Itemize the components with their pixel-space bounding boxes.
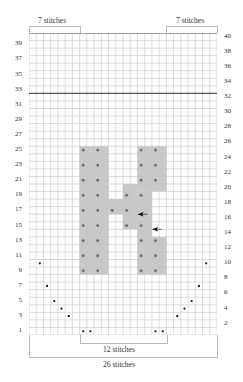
purl-dot-icon	[96, 179, 99, 182]
top-left-stitch-label: 7 stitches	[38, 16, 66, 25]
purl-dot-icon	[140, 269, 143, 272]
row-number-label: 11	[6, 251, 22, 259]
stitch-dot-icon	[89, 330, 91, 332]
row-number-label: 28	[224, 122, 240, 130]
row-number-label: 26	[224, 137, 240, 145]
row-number-label: 38	[224, 47, 240, 55]
row-number-label: 35	[6, 70, 22, 78]
purl-dot-icon	[82, 254, 85, 257]
stitch-dot-icon	[154, 330, 156, 332]
row-number-label: 12	[224, 243, 240, 251]
row-number-label: 8	[224, 273, 240, 281]
row-number-label: 10	[224, 258, 240, 266]
purl-dot-icon	[125, 209, 128, 212]
row-number-label: 24	[224, 153, 240, 161]
row-number-label: 16	[224, 213, 240, 221]
row-number-label: 18	[224, 198, 240, 206]
stitch-dot-icon	[191, 300, 193, 302]
row-number-label: 19	[6, 190, 22, 198]
purl-dot-icon	[96, 254, 99, 257]
top-right-bracket	[166, 26, 218, 33]
purl-dot-icon	[82, 239, 85, 242]
row-number-label: 31	[6, 100, 22, 108]
knitting-chart-grid	[29, 33, 217, 335]
row-number-label: 15	[6, 221, 22, 229]
bottom-outer-bracket	[29, 335, 218, 358]
row-number-label: 25	[6, 145, 22, 153]
purl-dot-icon	[125, 194, 128, 197]
row-number-label: 9	[6, 266, 22, 274]
stitch-dot-icon	[82, 330, 84, 332]
purl-dot-icon	[82, 269, 85, 272]
purl-dot-icon	[96, 164, 99, 167]
row-number-label: 1	[6, 326, 22, 334]
purl-dot-icon	[82, 149, 85, 152]
purl-dot-icon	[111, 209, 114, 212]
row-number-label: 30	[224, 107, 240, 115]
stitch-dot-icon	[176, 315, 178, 317]
stitch-dot-icon	[53, 300, 55, 302]
row-number-label: 33	[6, 85, 22, 93]
purl-dot-icon	[140, 224, 143, 227]
row-number-label: 29	[6, 115, 22, 123]
stitch-dot-icon	[68, 315, 70, 317]
purl-dot-icon	[140, 239, 143, 242]
row-number-label: 23	[6, 160, 22, 168]
stitch-dot-icon	[46, 285, 48, 287]
row-number-label: 13	[6, 236, 22, 244]
row-number-label: 17	[6, 205, 22, 213]
purl-dot-icon	[82, 164, 85, 167]
row-number-label: 39	[6, 39, 22, 47]
purl-dot-icon	[96, 209, 99, 212]
top-right-stitch-label: 7 stitches	[176, 16, 204, 25]
purl-dot-icon	[82, 179, 85, 182]
purl-dot-icon	[154, 239, 157, 242]
row-number-label: 34	[224, 77, 240, 85]
purl-dot-icon	[82, 224, 85, 227]
purl-dot-icon	[140, 164, 143, 167]
row-number-label: 2	[224, 319, 240, 327]
top-left-bracket	[29, 26, 81, 33]
purl-dot-icon	[140, 194, 143, 197]
row-number-label: 6	[224, 288, 240, 296]
bottom-outer-stitch-label: 26 stitches	[103, 360, 135, 369]
purl-dot-icon	[96, 269, 99, 272]
purl-dot-icon	[96, 239, 99, 242]
purl-dot-icon	[96, 224, 99, 227]
row-number-label: 4	[224, 304, 240, 312]
purl-dot-icon	[140, 179, 143, 182]
row-number-label: 22	[224, 168, 240, 176]
stitch-dot-icon	[198, 285, 200, 287]
purl-dot-icon	[154, 254, 157, 257]
row-number-label: 3	[6, 311, 22, 319]
purl-dot-icon	[154, 269, 157, 272]
purl-dot-icon	[154, 164, 157, 167]
chart-svg	[29, 33, 217, 335]
purl-dot-icon	[125, 224, 128, 227]
purl-dot-icon	[96, 149, 99, 152]
stitch-dot-icon	[162, 330, 164, 332]
row-number-label: 36	[224, 62, 240, 70]
row-number-label: 40	[224, 32, 240, 40]
row-number-label: 7	[6, 281, 22, 289]
purl-dot-icon	[82, 194, 85, 197]
row-number-label: 37	[6, 54, 22, 62]
stitch-dot-icon	[205, 262, 207, 264]
row-number-label: 21	[6, 175, 22, 183]
row-number-label: 27	[6, 130, 22, 138]
row-number-label: 20	[224, 183, 240, 191]
purl-dot-icon	[140, 149, 143, 152]
stitch-dot-icon	[183, 307, 185, 309]
row-number-label: 14	[224, 228, 240, 236]
row-number-label: 5	[6, 296, 22, 304]
purl-dot-icon	[140, 254, 143, 257]
purl-dot-icon	[154, 179, 157, 182]
purl-dot-icon	[96, 194, 99, 197]
purl-dot-icon	[154, 149, 157, 152]
purl-dot-icon	[82, 209, 85, 212]
row-number-label: 32	[224, 92, 240, 100]
stitch-dot-icon	[39, 262, 41, 264]
stitch-dot-icon	[60, 307, 62, 309]
